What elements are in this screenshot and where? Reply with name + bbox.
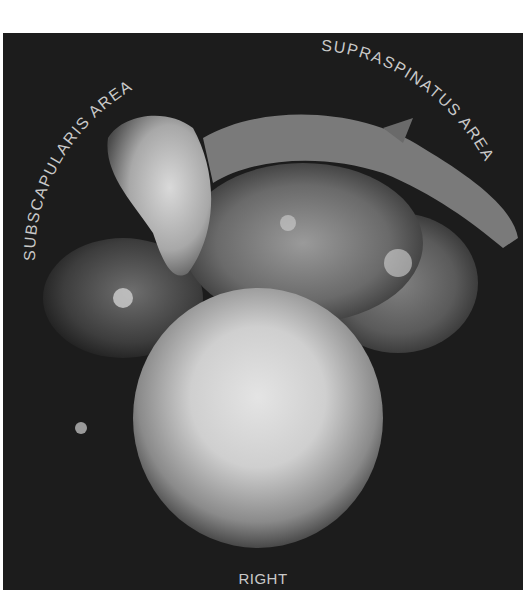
side-label: RIGHT [3,570,523,587]
shoulder-photograph: SUBSCAPULARIS AREA SUPRASPINATUS AREA RI… [3,33,523,590]
specimen-illustration: SUBSCAPULARIS AREA SUPRASPINATUS AREA [3,33,523,590]
humeral-head [133,288,383,548]
